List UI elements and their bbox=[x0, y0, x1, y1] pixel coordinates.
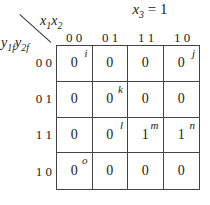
map-cell: 0 bbox=[93, 153, 129, 189]
row-header: 0 0 bbox=[22, 55, 52, 71]
map-cell: 0 bbox=[57, 118, 93, 154]
map-cell: 0 bbox=[164, 153, 200, 189]
map-cell: 0i bbox=[57, 46, 93, 82]
map-cell: 0 bbox=[164, 82, 200, 118]
row-header: 0 1 bbox=[22, 91, 52, 107]
map-cell: 0j bbox=[164, 46, 200, 82]
map-cell: 0 bbox=[57, 82, 93, 118]
map-cell: 0 bbox=[128, 153, 164, 189]
map-cell: 1n bbox=[164, 118, 200, 154]
map-cell: 0o bbox=[57, 153, 93, 189]
map-cell: 1m bbox=[128, 118, 164, 154]
column-header: 1 1 bbox=[128, 30, 164, 46]
map-cell: 0 bbox=[93, 46, 129, 82]
map-cell: 0 bbox=[128, 46, 164, 82]
map-cell: 0 bbox=[128, 82, 164, 118]
column-variables-label: x1x2 bbox=[40, 13, 62, 31]
column-header: 1 0 bbox=[164, 30, 200, 46]
column-header: 0 1 bbox=[92, 30, 128, 46]
row-variables-label: y1fy2f bbox=[1, 35, 29, 53]
karnaugh-map-grid: 0i 0 0 0j 0 0k 0 0 0 0l 1m 1n 0o 0 0 0 bbox=[56, 45, 200, 190]
map-cell: 0k bbox=[93, 82, 129, 118]
map-title: x3 = 1 bbox=[100, 1, 200, 20]
row-header: 1 1 bbox=[22, 127, 52, 143]
column-header: 0 0 bbox=[56, 30, 92, 46]
map-cell: 0l bbox=[93, 118, 129, 154]
row-header: 1 0 bbox=[22, 164, 52, 180]
